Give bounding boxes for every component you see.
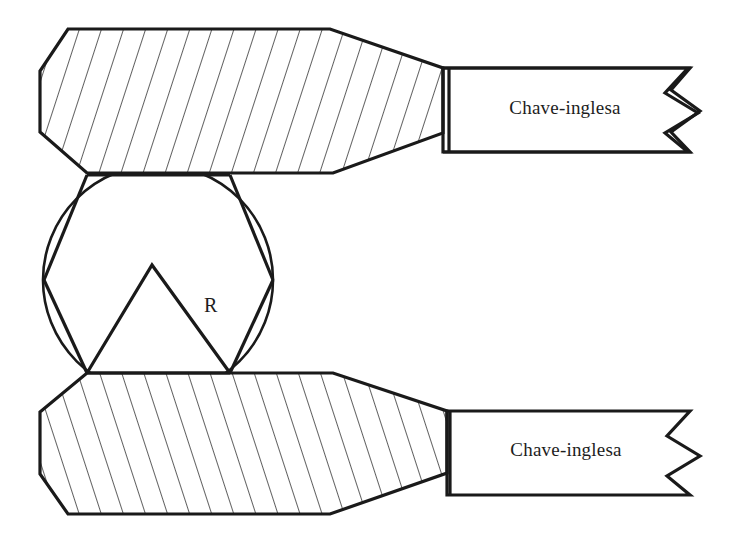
lower-handle: Chave-inglesa (447, 411, 700, 495)
upper-handle: Chave-inglesa (443, 68, 700, 152)
hexagon-edge-upper-right (230, 175, 273, 280)
diagram-canvas: Chave-inglesa Chave-inglesa (0, 0, 738, 539)
lower-handle-label: Chave-inglesa (510, 439, 622, 460)
hexagon-edge-upper-left (44, 175, 87, 280)
radius-label: R (204, 294, 218, 316)
upper-handle-label: Chave-inglesa (509, 97, 621, 118)
radius-triangle (87, 265, 230, 373)
hexagon-edge-lower-left (44, 280, 87, 373)
hexagon-edge-lower-right (230, 280, 273, 373)
radius-construction: R (87, 265, 230, 373)
wrench-hexnut-diagram: Chave-inglesa Chave-inglesa (0, 0, 738, 539)
